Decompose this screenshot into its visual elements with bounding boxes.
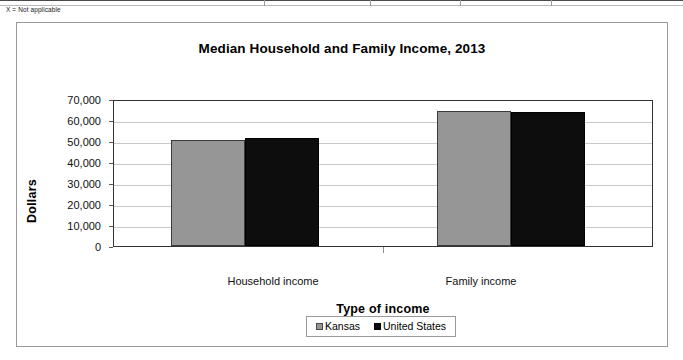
legend-swatch-icon <box>316 323 323 330</box>
footnote-text: X = Not applicable <box>6 6 61 13</box>
legend-label-kansas: Kansas <box>325 320 360 332</box>
table-top-rule <box>0 0 683 1</box>
y-axis-title: Dollars <box>25 141 39 261</box>
y-tick-label: 10,000 <box>39 221 101 232</box>
x-tick-mark <box>383 247 384 253</box>
bar-kansas-household <box>171 140 245 246</box>
legend-label-united-states: United States <box>383 320 446 332</box>
chart-title: Median Household and Family Income, 2013 <box>17 41 667 56</box>
table-column-separator <box>460 0 461 6</box>
table-column-separator <box>264 0 265 6</box>
y-tick-label: 20,000 <box>39 200 101 211</box>
bar-united-states-family <box>511 112 585 246</box>
chart-legend: Kansas United States <box>306 316 456 337</box>
y-tick-label: 40,000 <box>39 158 101 169</box>
y-tick-mark <box>109 247 113 248</box>
table-secondary-rule <box>0 5 683 6</box>
x-axis-title: Type of income <box>113 302 653 316</box>
chart-container: Median Household and Family Income, 2013… <box>16 22 668 347</box>
table-remnant: X = Not applicable <box>0 0 683 18</box>
x-category-label-household: Household income <box>183 275 363 287</box>
y-tick-label: 60,000 <box>39 116 101 127</box>
legend-entry-kansas: Kansas <box>316 320 360 332</box>
y-tick-label: 50,000 <box>39 137 101 148</box>
legend-entry-united-states: United States <box>374 320 446 332</box>
legend-swatch-icon <box>374 323 381 330</box>
y-tick-label: 30,000 <box>39 179 101 190</box>
x-category-label-family: Family income <box>361 275 601 287</box>
table-column-separator <box>370 0 371 6</box>
bar-kansas-family <box>437 111 511 246</box>
bar-united-states-household <box>245 138 319 246</box>
plot-area <box>113 100 653 247</box>
y-tick-label: 0 <box>39 242 101 253</box>
table-column-separator <box>551 0 552 6</box>
y-tick-label: 70,000 <box>39 95 101 106</box>
